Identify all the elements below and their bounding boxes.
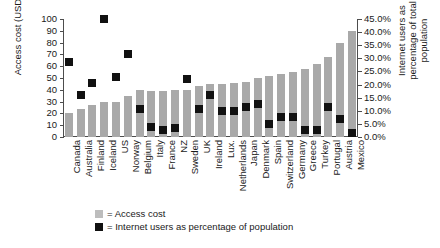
y-tick-label-left: 80 bbox=[46, 38, 57, 48]
x-axis-label: Australia bbox=[84, 140, 94, 177]
bar-group bbox=[193, 19, 205, 137]
y-tick-label-left: 90 bbox=[46, 26, 57, 36]
bar-group bbox=[98, 19, 110, 137]
bar bbox=[324, 57, 332, 137]
legend-item-access-cost: = Access cost bbox=[95, 207, 293, 220]
y-tick-label-right: 10.0% bbox=[364, 106, 391, 116]
y-tick-right bbox=[358, 98, 362, 99]
data-point-marker bbox=[171, 124, 179, 132]
bar-group bbox=[299, 19, 311, 137]
bar bbox=[65, 113, 73, 137]
y-tick-label-left: 60 bbox=[46, 61, 57, 71]
bar-group bbox=[216, 19, 228, 137]
bar bbox=[112, 102, 120, 137]
bar bbox=[277, 74, 285, 137]
y-tick-label-left: 10 bbox=[46, 120, 57, 130]
y-tick-label-right: 30.0% bbox=[364, 53, 391, 63]
y-tick-left bbox=[60, 137, 64, 138]
data-point-marker bbox=[206, 91, 214, 99]
y-tick-label-left: 30 bbox=[46, 97, 57, 107]
y-tick-label-left: 0 bbox=[52, 132, 57, 142]
data-point-marker bbox=[218, 107, 226, 115]
data-point-marker bbox=[136, 105, 144, 113]
data-point-marker bbox=[301, 126, 309, 134]
x-axis-label: Netherlands bbox=[238, 140, 248, 191]
y-tick-label-left: 40 bbox=[46, 85, 57, 95]
y-axis-left-title: Access cost (USD) bbox=[12, 0, 23, 91]
bar-group bbox=[287, 19, 299, 137]
bar-group bbox=[252, 19, 264, 137]
y-tick-label-right: 0.0% bbox=[364, 132, 386, 142]
bar bbox=[77, 109, 85, 137]
data-point-marker bbox=[254, 100, 262, 108]
series-container bbox=[63, 19, 358, 137]
x-axis-label: Turkey bbox=[320, 140, 330, 169]
x-axis-label: Norway bbox=[131, 140, 141, 172]
x-axis-label: Finland bbox=[96, 140, 106, 171]
gray-square-icon bbox=[95, 210, 103, 218]
bar-group bbox=[169, 19, 181, 137]
y-tick-label-right: 25.0% bbox=[364, 66, 391, 76]
plot-area: 0102030405060708090100 0.0%5.0%10.0%15.0… bbox=[63, 19, 358, 137]
y-tick-right bbox=[358, 85, 362, 86]
bar-group bbox=[311, 19, 323, 137]
x-axis-label: Ireland bbox=[214, 140, 224, 169]
chart-legend: = Access cost = Internet users as percen… bbox=[95, 207, 293, 233]
bar-group bbox=[334, 19, 346, 137]
x-axis-label: US bbox=[120, 140, 130, 153]
bar-group bbox=[146, 19, 158, 137]
x-axis-label: Italy bbox=[155, 140, 165, 157]
bar-group bbox=[87, 19, 99, 137]
bar-group bbox=[323, 19, 335, 137]
y-tick-label-left: 70 bbox=[46, 49, 57, 59]
data-point-marker bbox=[277, 113, 285, 121]
y-tick-right bbox=[358, 71, 362, 72]
x-axis-label: Denmark bbox=[261, 140, 271, 179]
x-axis-labels: CanadaAustraliaFinlandIcelandUSNorwayBel… bbox=[63, 140, 358, 202]
bar bbox=[100, 102, 108, 137]
x-axis-label: Japan bbox=[249, 140, 259, 166]
x-axis-label: NZ bbox=[179, 140, 189, 153]
bar-group bbox=[346, 19, 358, 137]
x-axis-label: Switzerland bbox=[285, 140, 295, 189]
y-tick-label-right: 35.0% bbox=[364, 40, 391, 50]
data-point-marker bbox=[230, 107, 238, 115]
bar bbox=[88, 105, 96, 137]
legend-label-access-cost: = Access cost bbox=[107, 207, 165, 220]
y-tick-label-right: 40.0% bbox=[364, 27, 391, 37]
data-point-marker bbox=[159, 126, 167, 134]
data-point-marker bbox=[100, 15, 108, 23]
y-tick-label-right: 20.0% bbox=[364, 80, 391, 90]
x-axis-label: UK bbox=[202, 140, 212, 153]
bar bbox=[289, 72, 297, 137]
data-point-marker bbox=[124, 50, 132, 58]
chart-figure: Access cost (USD) Internet users as perc… bbox=[0, 0, 440, 248]
data-point-marker bbox=[112, 73, 120, 81]
x-axis-label: Mexico bbox=[356, 140, 366, 170]
y-tick-right bbox=[358, 124, 362, 125]
bar bbox=[348, 31, 356, 137]
bar-group bbox=[63, 19, 75, 137]
legend-item-internet-users: = Internet users as percentage of popula… bbox=[95, 220, 293, 233]
y-tick-right bbox=[358, 137, 362, 138]
bar-group bbox=[75, 19, 87, 137]
x-axis-label: Germany bbox=[297, 140, 307, 179]
y-tick-label-left: 50 bbox=[46, 73, 57, 83]
data-point-marker bbox=[313, 126, 321, 134]
bar-group bbox=[275, 19, 287, 137]
bar-group bbox=[264, 19, 276, 137]
data-point-marker bbox=[324, 103, 332, 111]
black-square-icon bbox=[95, 223, 103, 231]
data-point-marker bbox=[65, 58, 73, 66]
y-tick-label-right: 5.0% bbox=[364, 119, 386, 129]
bar-group bbox=[110, 19, 122, 137]
x-axis-label: Spain bbox=[273, 140, 283, 164]
bar-group bbox=[122, 19, 134, 137]
y-tick-right bbox=[358, 111, 362, 112]
data-point-marker bbox=[289, 113, 297, 121]
bar bbox=[336, 43, 344, 137]
y-tick-right bbox=[358, 19, 362, 20]
y-tick-label-right: 45.0% bbox=[364, 14, 391, 24]
x-axis-label: Austria bbox=[344, 140, 354, 170]
y-tick-label-left: 20 bbox=[46, 108, 57, 118]
